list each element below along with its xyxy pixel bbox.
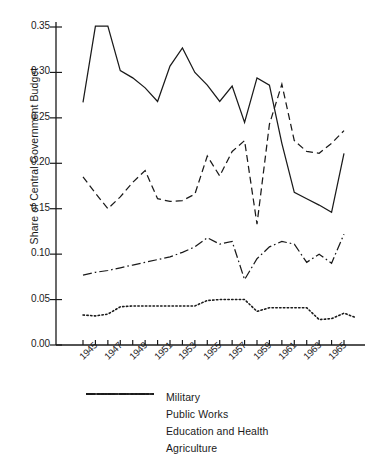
series-line-military — [83, 26, 344, 212]
series-line-public-works — [83, 84, 344, 224]
legend-label: Education and Health — [166, 425, 268, 437]
series-line-agriculture — [83, 300, 356, 320]
legend-key-swatch — [86, 425, 154, 437]
legend-item-public-works: Public Works — [86, 405, 336, 422]
legend-item-education-and-health: Education and Health — [86, 422, 336, 439]
legend-item-agriculture: Agriculture — [86, 439, 336, 456]
legend-key-swatch — [86, 408, 154, 420]
series-line-education-and-health — [83, 234, 344, 279]
legend-label: Military — [166, 391, 200, 403]
chart-legend: MilitaryPublic WorksEducation and Health… — [86, 388, 336, 456]
data-series-group — [83, 26, 356, 319]
legend-key-swatch — [86, 442, 154, 454]
legend-label: Agriculture — [166, 442, 217, 454]
legend-label: Public Works — [166, 408, 228, 420]
axes — [50, 22, 365, 345]
